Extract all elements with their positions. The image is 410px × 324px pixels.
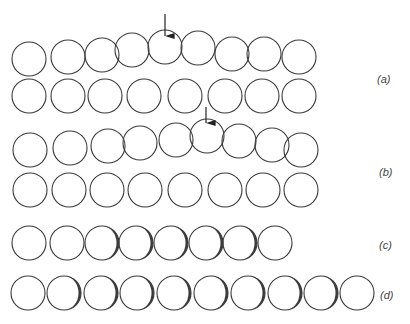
atom-circle: [47, 276, 81, 310]
atom-circle: [282, 79, 316, 113]
atom-circle: [181, 31, 215, 65]
shading-crescent: [285, 276, 302, 310]
atom-circle: [127, 79, 161, 113]
atom-circle: [12, 226, 46, 260]
atom-circle: [128, 173, 162, 207]
shading-crescent: [321, 276, 338, 310]
panel-label-b: (b): [379, 166, 392, 178]
atom-circle: [282, 40, 316, 74]
atom-circle: [84, 276, 118, 310]
atom-circle: [194, 276, 228, 310]
atom-circle: [208, 173, 242, 207]
atom-circle: [85, 226, 119, 260]
atom-circle: [88, 79, 122, 113]
shading-crescent: [206, 226, 223, 260]
atom-circle: [85, 38, 119, 72]
shading-crescent: [174, 276, 191, 310]
atom-circle: [284, 133, 318, 167]
shading-crescent: [64, 276, 81, 310]
atom-circle: [115, 33, 149, 67]
shading-crescent: [211, 276, 228, 310]
atom-circle: [154, 226, 188, 260]
atom-circle: [53, 131, 87, 165]
atom-circle: [13, 173, 47, 207]
atom-circle: [222, 124, 256, 158]
shading-crescent: [136, 226, 153, 260]
panel-label-a: (a): [377, 73, 390, 85]
atom-circle: [246, 173, 280, 207]
atom-circle: [215, 37, 249, 71]
atom-circle: [268, 276, 302, 310]
atom-circle: [231, 276, 265, 310]
atom-circle: [120, 276, 154, 310]
atom-circle: [50, 226, 84, 260]
shading-crescent: [171, 226, 188, 260]
atom-circle: [52, 173, 86, 207]
atom-circle: [189, 226, 223, 260]
shading-crescent: [101, 276, 118, 310]
atom-circle: [12, 42, 46, 76]
atom-circle: [51, 40, 85, 74]
atom-circle: [157, 276, 191, 310]
atom-circle: [168, 173, 202, 207]
atom-circle: [190, 119, 224, 153]
panel-label-d: (d): [380, 289, 393, 301]
atom-circle: [123, 126, 157, 160]
atom-circle: [168, 79, 202, 113]
atom-circle: [11, 276, 45, 310]
atom-circle: [223, 226, 257, 260]
atom-circle: [51, 79, 85, 113]
atom-circle: [340, 276, 374, 310]
atom-circles: [11, 30, 374, 310]
atom-circle: [255, 128, 289, 162]
shading-crescent: [102, 226, 119, 260]
atom-circle: [284, 173, 318, 207]
atom-circle: [159, 123, 193, 157]
atom-circle: [208, 79, 242, 113]
atom-circle: [258, 226, 292, 260]
shading-crescent: [240, 226, 257, 260]
atom-circle: [247, 37, 281, 71]
atom-circle: [12, 79, 46, 113]
atom-circle: [304, 276, 338, 310]
atom-circle: [91, 129, 125, 163]
dislocation-diagram: [0, 0, 410, 324]
atom-circle: [90, 173, 124, 207]
shading-crescent: [137, 276, 154, 310]
atom-circle: [245, 79, 279, 113]
panel-label-c: (c): [379, 239, 392, 251]
atom-circle: [13, 133, 47, 167]
atom-circle: [119, 226, 153, 260]
shading-crescent: [248, 276, 265, 310]
